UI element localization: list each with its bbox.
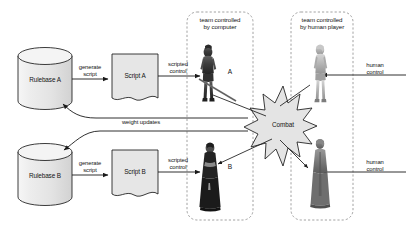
- edge-label-scripted-control-a: scripted control: [156, 61, 200, 74]
- edge-weight-updates-b: [64, 131, 248, 150]
- diagram-canvas: Rulebase A Rulebase B Script A Script B …: [0, 0, 410, 241]
- edge-label-scripted-control-b: scripted control: [156, 157, 200, 170]
- edge-weight-updates-a: [63, 104, 248, 118]
- node-label-rulebase-b: Rulebase B: [14, 172, 76, 179]
- edge-label-weight-updates: weight updates: [98, 119, 184, 126]
- node-label-script-b: Script B: [112, 168, 158, 175]
- edge-label-generate-script-b: generate script: [70, 160, 110, 173]
- edge-label-human-control-bottom: human control: [354, 159, 396, 172]
- edge-label-human-control-top: human control: [354, 62, 396, 75]
- character-human-top: [314, 45, 327, 103]
- character-agent-b: [199, 143, 220, 212]
- group-label-human-team: team controlled by human player: [291, 17, 353, 31]
- character-label-agent-a: A: [224, 68, 236, 75]
- edge-agent-a-to-combat: [213, 95, 266, 116]
- character-human-bottom: [310, 139, 330, 209]
- edge-label-generate-script-a: generate script: [70, 64, 110, 77]
- edge-combat-to-agent-b: [218, 139, 272, 164]
- character-label-agent-b: B: [224, 163, 236, 170]
- group-label-computer-team: team controlled by computer: [188, 17, 252, 31]
- group-box-computer-team: [187, 12, 253, 220]
- node-label-script-a: Script A: [112, 72, 158, 79]
- node-label-rulebase-a: Rulebase A: [14, 76, 76, 83]
- node-label-combat: Combat: [263, 121, 303, 128]
- diagram-vector-layer: [0, 0, 410, 241]
